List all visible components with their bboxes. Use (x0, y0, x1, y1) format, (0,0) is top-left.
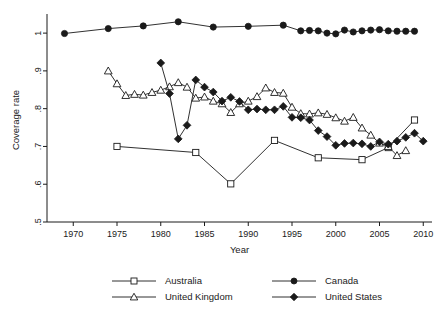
marker-filled-circle (394, 28, 400, 34)
marker-filled-circle (333, 31, 339, 37)
x-tick-label: 1980 (151, 229, 171, 239)
y-tick-label: .8 (33, 105, 43, 113)
x-tick-label: 1970 (63, 229, 83, 239)
legend-label: United Kingdom (165, 291, 233, 302)
marker-open-triangle (201, 93, 209, 100)
marker-open-square (228, 181, 234, 187)
marker-filled-diamond (358, 140, 366, 148)
y-tick-label: .6 (33, 180, 43, 188)
marker-filled-circle (245, 23, 251, 29)
marker-open-square (411, 117, 417, 123)
legend-label: Canada (325, 275, 359, 286)
marker-filled-circle (291, 278, 297, 284)
marker-open-triangle (157, 86, 165, 93)
marker-open-triangle (104, 67, 112, 74)
marker-open-triangle (314, 109, 322, 116)
marker-filled-circle (385, 28, 391, 34)
marker-filled-circle (280, 22, 286, 28)
chart-canvas: .5.6.7.8.9119701975198019851990199520002… (0, 0, 441, 314)
y-tick-label: .7 (33, 143, 43, 151)
x-tick-label: 1985 (194, 229, 214, 239)
marker-open-triangle (113, 80, 121, 87)
x-tick-label: 1975 (107, 229, 127, 239)
marker-filled-diamond (290, 293, 298, 301)
marker-filled-circle (411, 28, 417, 34)
legend-entry-canada[interactable]: Canada (272, 275, 359, 286)
marker-filled-diamond (367, 143, 375, 151)
marker-open-triangle (131, 90, 139, 97)
marker-open-triangle (271, 89, 279, 96)
marker-open-triangle (288, 103, 296, 110)
marker-filled-circle (298, 28, 304, 34)
marker-filled-circle (210, 24, 216, 30)
marker-filled-circle (403, 28, 409, 34)
x-axis-title: Year (230, 244, 249, 255)
marker-filled-circle (324, 30, 330, 36)
marker-open-triangle (174, 79, 182, 86)
marker-filled-circle (359, 28, 365, 34)
y-tick-label: .5 (33, 218, 43, 226)
marker-filled-circle (306, 27, 312, 33)
y-axis-title: Coverage rate (10, 90, 21, 150)
marker-open-triangle (332, 114, 340, 121)
x-tick-label: 1995 (282, 229, 302, 239)
marker-filled-diamond (341, 140, 349, 148)
marker-filled-diamond (253, 105, 261, 113)
marker-open-square (193, 149, 199, 155)
marker-filled-circle (341, 27, 347, 33)
legend-entry-united-kingdom[interactable]: United Kingdom (112, 291, 233, 302)
marker-filled-diamond (349, 139, 357, 147)
legend-entry-united-states[interactable]: United States (272, 291, 382, 302)
marker-filled-circle (315, 28, 321, 34)
x-tick-label: 2010 (413, 229, 433, 239)
coverage-rate-chart: .5.6.7.8.9119701975198019851990199520002… (0, 0, 441, 314)
marker-filled-diamond (227, 93, 235, 101)
marker-open-triangle (367, 131, 375, 138)
marker-open-triangle (349, 113, 357, 120)
marker-filled-diamond (174, 135, 182, 143)
marker-filled-diamond (183, 121, 191, 129)
marker-filled-circle (376, 27, 382, 33)
marker-open-triangle (183, 83, 191, 90)
marker-filled-circle (368, 27, 374, 33)
legend: AustraliaCanadaUnited KingdomUnited Stat… (112, 275, 382, 302)
marker-filled-diamond (271, 106, 279, 114)
marker-filled-diamond (393, 137, 401, 145)
marker-open-square (359, 157, 365, 163)
marker-open-triangle (341, 117, 349, 124)
marker-filled-diamond (402, 134, 410, 142)
marker-open-square (131, 278, 137, 284)
marker-open-square (315, 155, 321, 161)
marker-open-square (271, 137, 277, 143)
marker-filled-circle (350, 29, 356, 35)
y-tick-label: .9 (33, 67, 43, 75)
series-australia (114, 117, 418, 187)
x-tick-label: 2005 (369, 229, 389, 239)
marker-filled-circle (105, 25, 111, 31)
marker-open-triangle (244, 97, 252, 104)
marker-filled-circle (61, 30, 67, 36)
marker-open-triangle (262, 84, 270, 91)
legend-label: Australia (165, 275, 203, 286)
marker-filled-circle (140, 23, 146, 29)
x-tick-label: 1990 (238, 229, 258, 239)
marker-open-square (114, 143, 120, 149)
series-canada (61, 19, 417, 37)
marker-filled-circle (175, 19, 181, 25)
marker-filled-diamond (262, 106, 270, 114)
marker-open-triangle (402, 147, 410, 154)
marker-filled-diamond (157, 59, 165, 67)
y-tick-label: 1 (33, 31, 43, 36)
legend-label: United States (325, 291, 382, 302)
x-tick-label: 2000 (326, 229, 346, 239)
series-line (117, 120, 415, 184)
marker-filled-diamond (166, 90, 174, 98)
marker-open-triangle (209, 97, 217, 104)
legend-entry-australia[interactable]: Australia (112, 275, 203, 286)
